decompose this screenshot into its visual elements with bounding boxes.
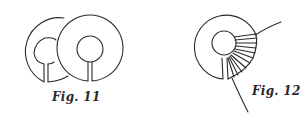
figure-12-caption: Fig. 12 <box>252 84 301 98</box>
fig12-strand-fan <box>228 34 257 79</box>
fig11-left-ring <box>25 18 68 82</box>
fig11-right-ring <box>57 15 123 81</box>
figure-11-caption: Fig. 11 <box>52 90 101 104</box>
